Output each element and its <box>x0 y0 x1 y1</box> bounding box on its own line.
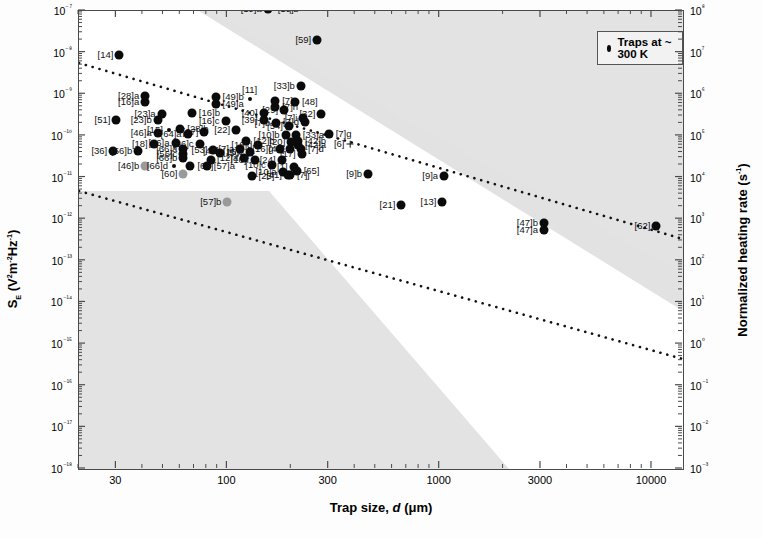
data-point <box>652 221 661 230</box>
x-tick-label: 10000 <box>636 474 667 486</box>
data-point-label: [44] <box>203 146 220 156</box>
data-point-label: [19]b <box>276 10 299 14</box>
data-point-label: [7]d <box>306 144 324 154</box>
data-point-label: [22] <box>214 125 231 135</box>
figure-root: [19]a[19]b[59][14][33]b[28]a[16]a[49]b[4… <box>0 0 762 538</box>
data-point-label: [21] <box>380 200 397 210</box>
data-point <box>284 122 293 131</box>
data-point-label: [11] <box>242 86 258 96</box>
x-tick-label: 30 <box>109 474 121 486</box>
legend-label: Traps at ~ 300 K <box>617 36 673 60</box>
data-point <box>440 171 449 180</box>
data-point-label: [14] <box>98 50 115 60</box>
legend-marker-icon <box>607 45 611 52</box>
y-tick-label: 10⁻¹⁷ <box>51 420 72 434</box>
y-tick-label: 10⁻⁹ <box>53 87 72 101</box>
data-point <box>172 164 176 168</box>
y2-axis-title: Normalized heating rate (s-1) <box>734 105 749 395</box>
y-tick-label: 10⁻¹² <box>52 211 72 225</box>
y2-tick-label: 10⁶ <box>690 87 705 101</box>
data-point <box>134 147 143 156</box>
data-point-label: [51] <box>95 115 112 125</box>
y2-tick-label: 10⁰ <box>690 336 705 350</box>
data-point-label: [13] <box>421 197 438 207</box>
data-point <box>297 150 306 159</box>
data-point-label: [57]a <box>212 161 235 171</box>
y-tick-label: 10⁻¹⁶ <box>51 378 72 392</box>
y-tick-label: 10⁻⁸ <box>53 45 72 59</box>
x-axis-title-prefix: Trap size, <box>330 500 393 515</box>
data-point <box>438 197 447 206</box>
data-point <box>232 125 241 134</box>
data-point-label: [46]a <box>131 128 153 138</box>
data-point-label: [7]j <box>295 170 310 180</box>
data-point-label: [56]b <box>111 146 133 156</box>
y2-tick-label: 10² <box>690 253 704 267</box>
trend-lines <box>79 11 683 469</box>
x-tick-label: 300 <box>318 474 336 486</box>
data-point <box>202 161 211 170</box>
y-tick-label: 10⁻¹¹ <box>52 170 72 184</box>
data-point-label: [9]b <box>346 169 363 179</box>
data-point <box>300 118 309 127</box>
data-point <box>179 170 188 179</box>
data-point <box>539 225 548 234</box>
data-point-label: [60] <box>161 169 178 179</box>
data-point-label: [25] <box>257 171 275 181</box>
y-tick-label: 10⁻¹⁰ <box>51 128 72 142</box>
x-tick-label: 1000 <box>426 474 450 486</box>
data-point <box>247 171 256 180</box>
data-point <box>186 161 195 170</box>
data-point <box>290 98 299 107</box>
data-point-label: [9]a <box>422 171 439 181</box>
data-point-label: [19]a <box>241 10 263 14</box>
y2-tick-label: 10⁸ <box>690 3 705 17</box>
data-point-label: [57]b <box>200 197 222 207</box>
y2-tick-label: 10⁴ <box>690 170 705 184</box>
data-point <box>313 36 322 45</box>
y-tick-label: 10⁻¹⁴ <box>51 295 72 309</box>
lower-dotted-trendline <box>79 191 683 359</box>
data-point-label: [47]a <box>517 225 539 235</box>
data-point-label: [16]a <box>118 97 140 107</box>
y2-axis-tick-labels: 10⁸10⁷10⁶10⁵10⁴10³10²10¹10⁰10⁻¹10⁻²10⁻³ <box>682 0 762 538</box>
data-point <box>364 170 373 179</box>
y2-tick-label: 10¹ <box>690 295 704 309</box>
data-point <box>397 200 406 209</box>
data-point <box>317 109 326 118</box>
y2-tick-label: 10⁷ <box>690 45 704 59</box>
data-point-label: [36] <box>91 146 108 156</box>
data-point <box>179 154 188 163</box>
x-tick-label: 100 <box>217 474 235 486</box>
data-point <box>112 116 121 125</box>
y-tick-label: 10⁻¹⁵ <box>51 336 72 350</box>
data-point <box>296 81 305 90</box>
plot-area: [19]a[19]b[59][14][33]b[28]a[16]a[49]b[4… <box>78 10 684 470</box>
data-point <box>200 127 209 136</box>
data-point-label: [59] <box>295 35 312 45</box>
data-point-label: [33]b <box>274 81 296 91</box>
data-point <box>347 140 354 147</box>
data-point-label: [6] <box>334 139 346 149</box>
y-tick-label: 10⁻⁷ <box>54 3 72 17</box>
x-axis-title-symbol: d <box>393 500 401 515</box>
data-point <box>115 50 124 59</box>
data-point <box>248 97 252 101</box>
data-point <box>187 108 196 117</box>
y2-tick-label: 10³ <box>690 211 704 225</box>
data-point-label: [48] <box>300 97 318 107</box>
y2-tick-label: 10⁵ <box>690 128 705 142</box>
x-axis-title: Trap size, d (μm) <box>0 500 762 515</box>
y-tick-label: 10⁻¹³ <box>52 253 72 267</box>
y-axis-title: SE (V2m-2Hz-1) <box>5 149 23 389</box>
data-point <box>223 197 232 206</box>
x-tick-label: 3000 <box>528 474 552 486</box>
data-point-label: [46]b <box>118 161 140 171</box>
data-point <box>141 98 150 107</box>
data-point-label: [29] <box>262 105 279 115</box>
y2-tick-label: 10⁻¹ <box>690 378 708 392</box>
y2-tick-label: 10⁻² <box>690 420 708 434</box>
x-axis-title-suffix: (μm) <box>401 500 433 515</box>
legend-box: Traps at ~ 300 K <box>597 31 683 65</box>
data-point <box>285 171 294 180</box>
